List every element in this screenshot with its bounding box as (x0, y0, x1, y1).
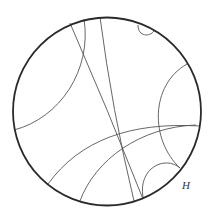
geodesic-line-a (70, 23, 143, 199)
geodesic-small-bottom-arc (142, 163, 180, 197)
geodesic-line-b (100, 17, 134, 201)
poincare-disk-diagram: H (0, 0, 209, 216)
geodesic-upper-left-arc (14, 19, 85, 130)
disk-boundary (13, 18, 201, 206)
geodesic-right-arc (158, 64, 187, 168)
geodesic-lower-arc-2 (80, 125, 196, 201)
label-h: H (181, 179, 191, 191)
